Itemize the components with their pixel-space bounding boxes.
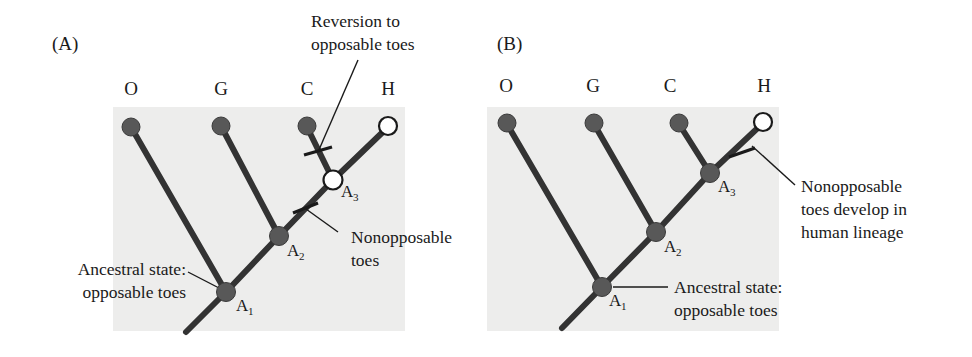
annotation-human-lineage-line1: Nonopposable xyxy=(801,176,902,196)
tip-node-g-b xyxy=(585,114,603,132)
tip-label-o-a: O xyxy=(124,78,138,99)
internal-node-a1-a xyxy=(217,283,236,302)
tip-label-o-b: O xyxy=(499,75,513,96)
node-label-a3-b-sub: 3 xyxy=(730,186,736,198)
tip-node-o-b xyxy=(498,114,516,132)
tip-node-c-a xyxy=(298,117,316,135)
tip-label-h-a: H xyxy=(381,78,395,99)
internal-node-a2-a xyxy=(270,227,289,246)
internal-node-a3-b xyxy=(701,164,720,183)
panel-b-background xyxy=(487,107,779,331)
phylogeny-canvas: (A) O G C H A 1 A 2 A 3 Reversion to opp… xyxy=(0,0,972,357)
annotation-reversion: Reversion to opposable toes xyxy=(311,11,415,54)
tip-node-g-a xyxy=(212,117,230,135)
annotation-reversion-line1: Reversion to xyxy=(311,11,400,31)
node-label-a1-a-sub: 1 xyxy=(248,305,254,317)
annotation-reversion-line2: opposable toes xyxy=(311,34,415,54)
tip-node-h-a xyxy=(379,117,397,135)
annotation-ancestral-b-line2: opposable toes xyxy=(674,300,778,320)
tip-label-g-a: G xyxy=(214,78,228,99)
node-label-a1-b-sub: 1 xyxy=(621,300,627,312)
annotation-ancestral-b-line1: Ancestral state: xyxy=(674,277,782,297)
annotation-human-lineage-line3: human lineage xyxy=(801,222,904,242)
phylogeny-figure: (A) O G C H A 1 A 2 A 3 Reversion to opp… xyxy=(0,0,972,357)
panel-a-letter: (A) xyxy=(52,33,78,55)
annotation-nonopposable-line1: Nonopposable xyxy=(351,227,452,247)
tip-node-o-a xyxy=(122,118,140,136)
node-label-a2-b-sub: 2 xyxy=(676,246,682,258)
annotation-ancestral-a-line1: Ancestral state: xyxy=(78,259,186,279)
internal-node-a2-b xyxy=(647,223,666,242)
tip-label-c-b: C xyxy=(664,75,677,96)
node-label-a3-a-sub: 3 xyxy=(353,191,359,203)
annotation-human-lineage-line2: toes develop in xyxy=(801,199,907,219)
tip-node-c-b xyxy=(670,114,688,132)
annotation-ancestral-a-line2: opposable toes xyxy=(82,282,186,302)
annotation-nonopposable-line2: toes xyxy=(351,250,379,270)
node-label-a2-a-sub: 2 xyxy=(299,250,305,262)
tip-node-h-b xyxy=(754,113,772,131)
tip-label-g-b: G xyxy=(586,75,600,96)
annotation-human-lineage: Nonopposable toes develop in human linea… xyxy=(801,176,907,242)
tip-label-h-b: H xyxy=(757,75,771,96)
panel-b-letter: (B) xyxy=(497,33,522,55)
internal-node-a3-a xyxy=(324,171,343,190)
tip-label-c-a: C xyxy=(301,78,314,99)
